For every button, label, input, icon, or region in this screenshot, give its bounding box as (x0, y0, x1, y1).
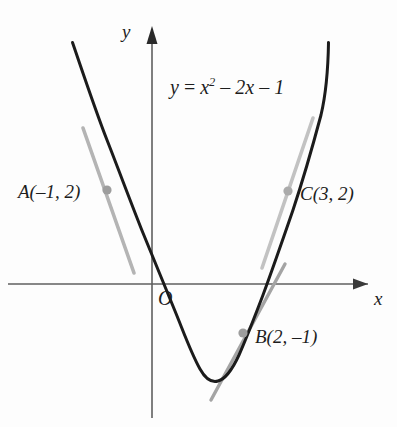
origin-label: O (158, 288, 172, 308)
graph-figure: y x O y = x2 – 2x – 1 A(–1, 2) C(3, 2) B… (0, 0, 397, 427)
y-axis-label: y (122, 22, 130, 41)
point-marker-b (238, 328, 247, 337)
x-axis-arrow-icon (353, 279, 368, 290)
x-axis (8, 279, 368, 290)
y-axis (147, 26, 158, 418)
equation-rest: – 2x – 1 (220, 76, 284, 98)
point-label-a: A(–1, 2) (18, 182, 80, 201)
equation-equals: = (184, 76, 195, 98)
point-label-c: C(3, 2) (300, 184, 354, 203)
equation-term1-base: x (200, 76, 209, 98)
graph-canvas (0, 0, 397, 427)
point-marker-c (283, 186, 292, 195)
equation-term1-exponent: 2 (209, 75, 215, 89)
tangent-line-a (83, 128, 134, 273)
equation-lhs: y (170, 76, 179, 98)
equation-label: y = x2 – 2x – 1 (170, 76, 284, 97)
point-label-b: B(2, –1) (255, 327, 317, 346)
point-marker-a (102, 185, 111, 194)
x-axis-label: x (374, 289, 382, 308)
y-axis-arrow-icon (147, 26, 158, 44)
